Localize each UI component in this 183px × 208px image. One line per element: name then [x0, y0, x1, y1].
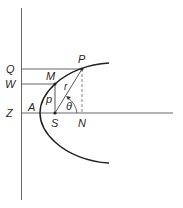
label-n: N — [78, 117, 86, 129]
label-w: W — [5, 78, 17, 90]
label-z: Z — [5, 107, 14, 119]
parabola-diagram: P M Q W Z A S N r p θ — [0, 0, 183, 208]
label-s: S — [51, 117, 59, 129]
label-p: P — [78, 53, 86, 65]
point-p — [81, 68, 84, 71]
label-p-small: p — [45, 93, 52, 105]
point-s — [53, 111, 56, 114]
label-a: A — [27, 101, 35, 113]
label-m: M — [46, 70, 56, 82]
point-m — [54, 83, 57, 86]
label-theta: θ — [66, 100, 72, 112]
label-q: Q — [6, 63, 15, 75]
label-r: r — [64, 81, 68, 92]
